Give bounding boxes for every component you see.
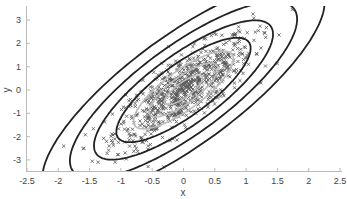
- y-tick-label: 3: [16, 15, 21, 25]
- x-tick-label: -1: [117, 176, 125, 186]
- x-axis-label: x: [181, 187, 186, 198]
- scatter-contour-chart: -2.5-2-1.5-1-0.500.511.522.5 -3-2-10123 …: [0, 0, 347, 199]
- x-tick-label: 2.5: [334, 176, 347, 186]
- y-axis-label: y: [1, 88, 12, 93]
- y-tick-label: 0: [16, 85, 21, 95]
- y-tick-label: -1: [13, 108, 21, 118]
- y-tick-label: -3: [13, 155, 21, 165]
- y-tick-label: 1: [16, 62, 21, 72]
- x-tick-label: 1.5: [271, 176, 284, 186]
- x-tick-label: 2: [306, 176, 311, 186]
- x-tick-label: 1: [244, 176, 249, 186]
- x-tick-label: -2: [54, 176, 62, 186]
- x-tick-label: -0.5: [144, 176, 160, 186]
- x-ticks: -2.5-2-1.5-1-0.500.511.522.5: [19, 168, 346, 186]
- y-tick-label: -2: [13, 132, 21, 142]
- x-tick-label: 0: [181, 176, 186, 186]
- y-ticks: -3-2-10123: [13, 15, 30, 165]
- y-tick-label: 2: [16, 38, 21, 48]
- x-tick-label: 0.5: [209, 176, 222, 186]
- x-tick-label: -1.5: [82, 176, 98, 186]
- x-tick-label: -2.5: [19, 176, 35, 186]
